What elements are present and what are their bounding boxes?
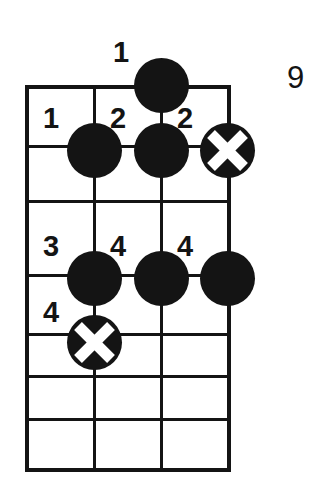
- chord-diagram: 1 1 2 2 3 4 4 4 9: [0, 0, 317, 494]
- finger-number-m4: 2: [177, 104, 193, 133]
- fret-line-7: [25, 468, 231, 472]
- finger-number-m8: 4: [43, 298, 59, 327]
- finger-number-m6: 4: [110, 232, 126, 261]
- string-line-1: [25, 85, 29, 472]
- finger-dot-m7[interactable]: [200, 251, 255, 306]
- finger-number-m2: 1: [43, 104, 59, 133]
- cross-icon: [200, 123, 255, 178]
- muted-dot-m8[interactable]: [67, 315, 122, 370]
- finger-number-m5: 3: [43, 232, 59, 261]
- fret-line-5: [25, 375, 231, 378]
- finger-number-m7: 4: [177, 232, 193, 261]
- muted-dot-m4[interactable]: [200, 123, 255, 178]
- finger-number-m1: 1: [113, 38, 129, 67]
- cross-icon: [67, 315, 122, 370]
- nut-line: [25, 85, 231, 89]
- finger-number-m3: 2: [110, 104, 126, 133]
- fret-line-2: [25, 200, 231, 203]
- fret-line-6: [25, 418, 231, 421]
- fret-line-4: [25, 333, 231, 336]
- fret-position-label: 9: [287, 62, 304, 93]
